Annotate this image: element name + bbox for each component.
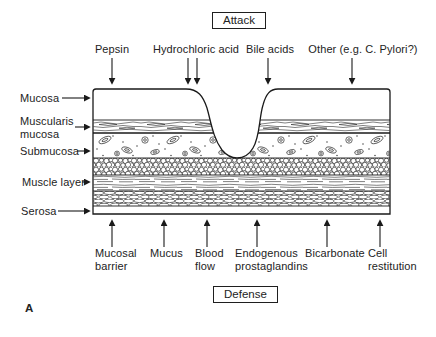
- figure-canvas: Attack Pepsin Hydrochloric acid Bile aci…: [0, 0, 436, 337]
- attack-title-box: Attack: [212, 12, 266, 29]
- defense-title-box: Defense: [213, 286, 278, 303]
- layer-band-muscle-inner: [94, 158, 390, 175]
- defense-factor-label-bicarbonate: Bicarbonate: [305, 247, 365, 260]
- defense-arrows: [112, 221, 380, 247]
- defense-factor-label-blood-flow: Blood flow: [195, 247, 231, 272]
- layer-label-muscle-layer: Muscle layer: [22, 176, 94, 189]
- defense-factor-label-mucus: Mucus: [150, 247, 183, 260]
- attack-arrows: [112, 58, 352, 83]
- layer-label-muscularis-mucosa: Muscularis mucosa: [20, 115, 82, 140]
- layer-label-serosa: Serosa: [21, 205, 56, 218]
- defense-factor-label-mucosal-barrier: Mucosal barrier: [95, 247, 147, 272]
- layer-label-mucosa: Mucosa: [20, 92, 59, 105]
- attack-factor-label-other: Other (e.g. C. Pylori?): [297, 43, 429, 56]
- layer-band-muscle-outer: [94, 191, 390, 206]
- panel-label: A: [25, 302, 33, 314]
- defense-factor-label-cell-restitution: Cell restitution: [368, 247, 424, 272]
- layer-band-muscle-mid: [94, 175, 390, 191]
- layer-label-submucosa: Submucosa: [20, 145, 79, 158]
- attack-factor-label-pepsin: Pepsin: [72, 43, 152, 56]
